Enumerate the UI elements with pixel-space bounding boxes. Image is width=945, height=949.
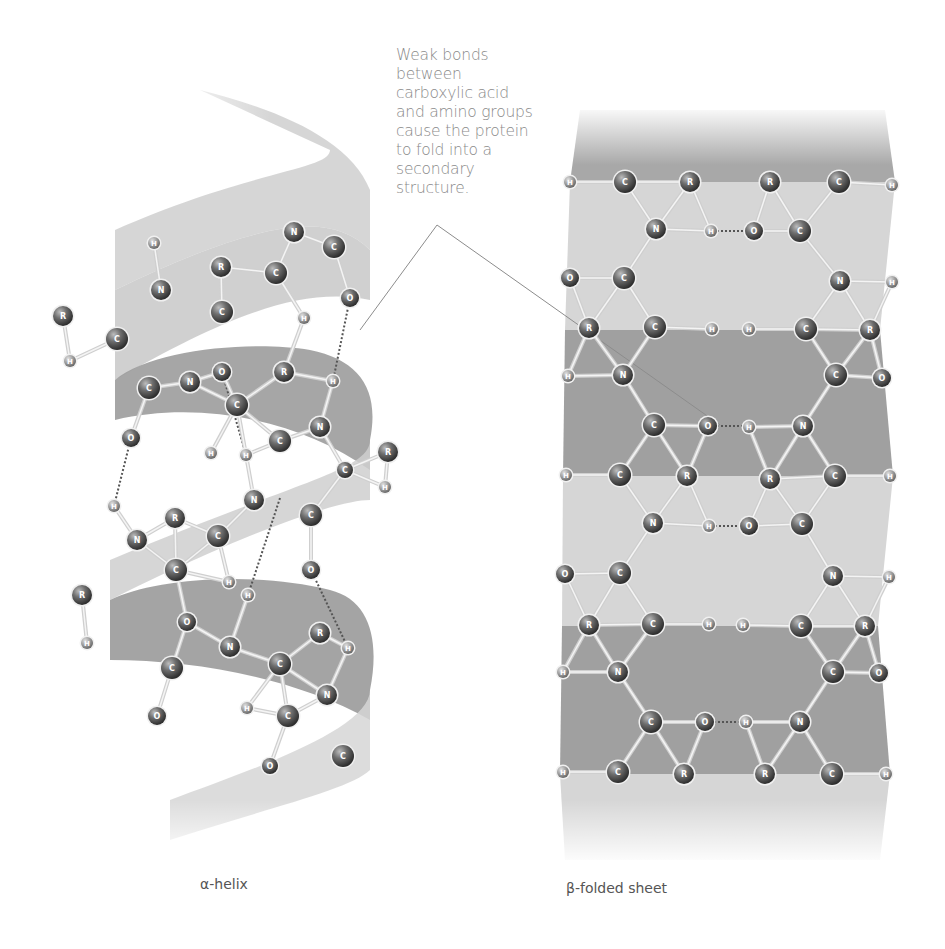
atom-o: O bbox=[698, 416, 719, 437]
svg-text:O: O bbox=[184, 618, 191, 627]
svg-text:O: O bbox=[154, 712, 161, 721]
atom-h: H bbox=[341, 641, 356, 656]
atom-o: O bbox=[212, 362, 233, 383]
svg-text:C: C bbox=[830, 668, 836, 677]
svg-text:N: N bbox=[317, 423, 324, 432]
atom-r: R bbox=[859, 319, 882, 342]
svg-text:O: O bbox=[879, 374, 886, 383]
svg-text:R: R bbox=[767, 178, 773, 187]
svg-text:C: C bbox=[650, 620, 656, 629]
svg-text:R: R bbox=[586, 324, 592, 333]
atom-n: N bbox=[309, 416, 332, 439]
atom-h: H bbox=[563, 175, 578, 190]
atom-n: N bbox=[642, 512, 665, 535]
atom-h: H bbox=[742, 420, 757, 435]
atom-o: O bbox=[739, 516, 760, 537]
atom-c: C bbox=[336, 461, 355, 480]
svg-text:O: O bbox=[567, 274, 574, 283]
atom-c: C bbox=[276, 704, 301, 729]
atom-n: N bbox=[645, 218, 668, 241]
svg-text:R: R bbox=[681, 770, 687, 779]
atom-h: H bbox=[742, 322, 757, 337]
svg-text:C: C bbox=[622, 178, 628, 187]
atom-h: H bbox=[107, 499, 122, 514]
atom-c: C bbox=[642, 413, 667, 438]
atom-c: C bbox=[827, 170, 852, 195]
atom-o: O bbox=[872, 368, 893, 389]
atom-r: R bbox=[754, 763, 777, 786]
svg-text:C: C bbox=[285, 712, 291, 721]
svg-text:H: H bbox=[746, 326, 752, 334]
atom-r: R bbox=[676, 465, 699, 488]
svg-text:H: H bbox=[563, 472, 569, 480]
atom-o: O bbox=[560, 268, 581, 289]
atom-o: O bbox=[121, 428, 142, 449]
svg-text:C: C bbox=[617, 569, 623, 578]
atom-h: H bbox=[559, 468, 574, 483]
atom-c: C bbox=[299, 503, 324, 528]
atom-h: H bbox=[147, 236, 162, 251]
atom-h: H bbox=[561, 369, 576, 384]
svg-text:O: O bbox=[562, 570, 569, 579]
svg-text:H: H bbox=[889, 182, 895, 190]
atom-o: O bbox=[147, 706, 168, 727]
beta-sheet-ribbon bbox=[555, 105, 905, 865]
svg-text:N: N bbox=[650, 519, 657, 528]
svg-text:N: N bbox=[251, 496, 258, 505]
atom-n: N bbox=[792, 415, 815, 438]
atom-o: O bbox=[869, 663, 890, 684]
svg-text:O: O bbox=[705, 422, 712, 431]
atom-n: N bbox=[607, 661, 630, 684]
atom-c: C bbox=[331, 744, 356, 769]
svg-text:C: C bbox=[803, 325, 809, 334]
atom-c: C bbox=[210, 300, 235, 325]
atom-n: N bbox=[179, 371, 202, 394]
svg-text:H: H bbox=[382, 484, 388, 492]
svg-text:C: C bbox=[617, 471, 623, 480]
svg-text:C: C bbox=[114, 335, 120, 344]
svg-text:C: C bbox=[173, 566, 179, 575]
atom-r: R bbox=[854, 615, 877, 638]
atom-h: H bbox=[556, 765, 571, 780]
svg-text:O: O bbox=[308, 566, 315, 575]
atom-c: C bbox=[264, 261, 289, 286]
atom-h: H bbox=[241, 588, 256, 603]
atom-h: H bbox=[879, 767, 894, 782]
atom-n: N bbox=[829, 270, 852, 293]
atom-h: H bbox=[739, 715, 754, 730]
svg-text:O: O bbox=[746, 522, 753, 531]
atom-r: R bbox=[578, 614, 601, 637]
svg-text:O: O bbox=[219, 368, 226, 377]
svg-text:C: C bbox=[832, 472, 838, 481]
atom-n: N bbox=[612, 364, 635, 387]
svg-text:N: N bbox=[837, 277, 844, 286]
svg-text:C: C bbox=[621, 274, 627, 283]
svg-text:R: R bbox=[762, 770, 768, 779]
atom-c: C bbox=[790, 512, 815, 537]
atom-o: O bbox=[340, 288, 361, 309]
atom-o: O bbox=[695, 712, 716, 733]
atom-c: C bbox=[268, 429, 293, 454]
svg-text:N: N bbox=[615, 668, 622, 677]
atom-r: R bbox=[679, 171, 702, 194]
atom-c: C bbox=[613, 170, 638, 195]
svg-text:C: C bbox=[833, 371, 839, 380]
svg-text:R: R bbox=[586, 621, 592, 630]
atom-o: O bbox=[301, 560, 322, 581]
svg-text:R: R bbox=[172, 514, 178, 523]
annotation-line: secondary bbox=[396, 160, 533, 179]
svg-text:O: O bbox=[128, 434, 135, 443]
atom-r: R bbox=[673, 763, 696, 786]
svg-text:C: C bbox=[277, 437, 283, 446]
atom-c: C bbox=[608, 561, 633, 586]
atom-h: H bbox=[204, 446, 219, 461]
svg-text:H: H bbox=[565, 373, 571, 381]
atom-n: N bbox=[126, 529, 149, 552]
atom-h: H bbox=[885, 275, 900, 290]
protein-secondary-structure-diagram: NCRCOHNCHRCHCNORHCNCOHHRHCHNCRNCCOHRHOHN… bbox=[0, 0, 945, 949]
svg-text:N: N bbox=[324, 691, 331, 700]
svg-text:N: N bbox=[227, 643, 234, 652]
svg-text:C: C bbox=[652, 323, 658, 332]
svg-text:H: H bbox=[301, 315, 307, 323]
svg-text:H: H bbox=[330, 378, 336, 386]
